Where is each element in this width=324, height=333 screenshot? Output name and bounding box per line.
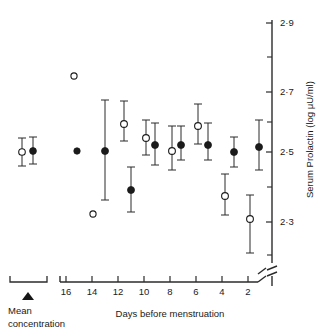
mean-point-filled (29, 137, 37, 164)
marker-filled-7 (231, 149, 238, 156)
marker-open-4 (143, 135, 150, 142)
mean-open-marker (19, 149, 26, 156)
data-point-open-4 (142, 120, 150, 155)
marker-open-7 (222, 193, 229, 200)
y-axis-break-lower (267, 272, 277, 276)
chart-svg: 2·9 2·7 2·5 2·3 Serum Prolactin (log μU/… (0, 0, 324, 333)
y-tick-label-3: 2·3 (280, 216, 294, 227)
y-tick-label-1: 2·7 (280, 86, 294, 97)
x-tick-label-6: 4 (219, 286, 224, 297)
marker-filled-8 (256, 144, 263, 151)
marker-filled-5 (178, 142, 185, 149)
x-tick-label-3: 10 (139, 286, 150, 297)
prolactin-scatter-figure: 2·9 2·7 2·5 2·3 Serum Prolactin (log μU/… (0, 0, 324, 333)
mean-label-line2: concentration (8, 318, 65, 329)
data-point-filled-8 (255, 120, 263, 170)
data-point-open-2 (90, 211, 96, 217)
data-point-filled-5 (177, 126, 185, 160)
x-tick-label-1: 14 (87, 286, 98, 297)
y-tick-label-2: 2·5 (280, 146, 294, 157)
data-point-filled-3 (127, 167, 135, 212)
data-series-filled (74, 100, 263, 212)
x-tick-label-0: 16 (61, 286, 72, 297)
data-series-open (71, 73, 254, 253)
mean-label-line1: Mean (8, 305, 32, 316)
x-axis-break-lower (258, 276, 266, 282)
marker-open-5 (169, 148, 176, 155)
marker-filled-2 (102, 148, 109, 155)
y-tick-label-0: 2·9 (280, 17, 294, 28)
data-point-filled-4 (151, 123, 159, 165)
data-point-open-3 (120, 101, 128, 141)
data-point-filled-2 (101, 100, 109, 200)
marker-filled-6 (205, 142, 212, 149)
marker-open-6 (195, 123, 202, 130)
data-point-open-5 (168, 126, 176, 170)
marker-open-3 (121, 121, 128, 128)
mean-filled-marker (30, 148, 37, 155)
data-point-open-6 (194, 104, 202, 144)
x-tick-label-4: 8 (167, 286, 172, 297)
y-axis-title: Serum Prolactin (log μU/ml) (304, 81, 315, 198)
y-axis-break-upper (267, 266, 277, 270)
data-point-open-8 (246, 195, 254, 253)
data-point-open-7 (221, 174, 229, 215)
triangle-up-icon (22, 292, 34, 300)
data-point-open-1 (71, 73, 77, 79)
x-tick-label-7: 2 (245, 286, 250, 297)
data-point-filled-6 (204, 123, 212, 160)
x-axis-break-upper (258, 268, 266, 274)
data-point-filled-7 (230, 137, 238, 167)
marker-open-8 (247, 216, 254, 223)
y-axis: 2·9 2·7 2·5 2·3 Serum Prolactin (log μU/… (266, 17, 315, 286)
x-axis: 16 14 12 10 8 6 4 2 Days before menstrua… (60, 268, 266, 319)
x-tick-label-5: 6 (193, 286, 198, 297)
marker-filled-4 (152, 142, 159, 149)
mean-concentration-panel: Mean concentration (8, 137, 65, 329)
x-axis-title: Days before menstruation (116, 308, 225, 319)
data-point-filled-1 (74, 148, 80, 154)
mean-panel-bracket (10, 276, 47, 282)
mean-point-open (18, 138, 26, 166)
x-tick-label-2: 12 (113, 286, 124, 297)
marker-filled-3 (128, 187, 135, 194)
